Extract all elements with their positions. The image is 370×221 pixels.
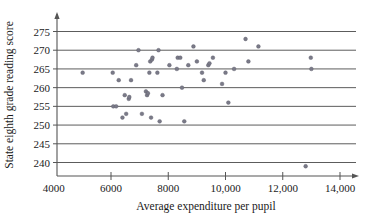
x-axis-title: Average expenditure per pupil <box>136 200 275 213</box>
y-tick-label: 255 <box>34 100 51 112</box>
data-point <box>147 71 151 75</box>
data-point <box>180 86 184 90</box>
data-point <box>114 104 118 108</box>
scatter-plot-figure: 240245250255260265270275 40006000800010,… <box>0 0 370 221</box>
data-point <box>161 93 165 97</box>
data-point <box>224 71 228 75</box>
x-tick-label: 10,000 <box>210 182 241 194</box>
y-axis <box>54 12 59 176</box>
plot-canvas: 240245250255260265270275 40006000800010,… <box>0 0 370 221</box>
data-point <box>202 78 206 82</box>
data-point <box>127 95 131 99</box>
data-point <box>220 82 224 86</box>
data-point <box>247 60 251 64</box>
y-axis-title: State eighth grade reading score <box>3 21 16 169</box>
data-point <box>123 93 127 97</box>
data-point <box>146 91 150 95</box>
data-point <box>157 48 161 52</box>
y-axis-arrow <box>54 12 59 19</box>
data-point <box>81 71 85 75</box>
data-point <box>124 112 128 116</box>
data-point <box>111 71 115 75</box>
x-tick-label: 8000 <box>157 182 180 194</box>
x-tick-label: 4000 <box>43 182 66 194</box>
data-point <box>244 37 248 41</box>
data-point <box>155 71 159 75</box>
x-axis <box>57 173 359 178</box>
data-point <box>117 78 121 82</box>
y-tick-label: 260 <box>34 82 51 94</box>
data-point <box>137 48 141 52</box>
x-tick-label: 14,000 <box>325 182 356 194</box>
data-point <box>200 71 204 75</box>
data-point <box>208 61 212 65</box>
data-point <box>309 67 313 71</box>
y-tick-label: 240 <box>34 157 51 169</box>
x-tick-group: 40006000800010,00012,00014,000 <box>43 172 356 194</box>
data-point <box>149 116 153 120</box>
data-point <box>151 56 155 60</box>
data-point <box>134 63 138 67</box>
data-point <box>168 63 172 67</box>
y-tick-group: 240245250255260265270275 <box>34 26 58 169</box>
data-point <box>121 116 125 120</box>
y-tick-label: 245 <box>34 138 51 150</box>
data-point <box>175 67 179 71</box>
data-point <box>232 67 236 71</box>
data-point-group <box>81 37 314 168</box>
data-point <box>186 63 190 67</box>
y-tick-label: 275 <box>34 26 51 38</box>
data-point <box>158 119 162 123</box>
x-axis-arrow <box>352 173 359 178</box>
y-tick-label: 270 <box>34 44 51 56</box>
data-point <box>226 101 230 105</box>
y-tick-label: 265 <box>34 63 51 75</box>
data-point <box>140 112 144 116</box>
data-point <box>192 45 196 49</box>
data-point <box>195 60 199 64</box>
x-tick-label: 12,000 <box>268 182 299 194</box>
data-point <box>304 164 308 168</box>
x-tick-label: 6000 <box>100 182 123 194</box>
y-tick-label: 250 <box>34 119 51 131</box>
data-point <box>129 78 133 82</box>
data-point <box>309 56 313 60</box>
data-point <box>257 45 261 49</box>
gridline-group <box>57 32 356 163</box>
data-point <box>211 56 215 60</box>
data-point <box>182 119 186 123</box>
data-point <box>178 56 182 60</box>
